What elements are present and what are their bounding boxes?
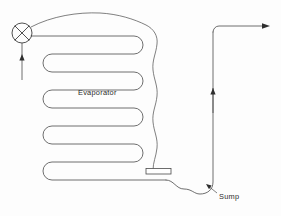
expansion-valve-symbol[interactable]: [12, 23, 32, 43]
outlet-flow-arrow: [262, 23, 270, 29]
evaporator-serpentine-coil: [31, 36, 166, 180]
heater-element-box: [146, 169, 171, 175]
evaporator-schematic: Evaporator Sump: [0, 0, 281, 216]
sump-u-bend-and-riser: [166, 32, 213, 194]
outlet-arrow-head-icon: [262, 23, 270, 29]
evaporator-label: Evaporator: [78, 88, 117, 97]
riser-arrow-head-icon: [210, 88, 215, 95]
inlet-flow-arrow: [19, 43, 24, 80]
suction-outlet-pipe: [213, 26, 265, 32]
riser-flow-arrow: [210, 88, 215, 113]
inlet-arrow-head-icon: [19, 54, 24, 61]
diagram-canvas: Evaporator Sump: [0, 0, 281, 216]
sump-label: Sump: [219, 192, 239, 201]
